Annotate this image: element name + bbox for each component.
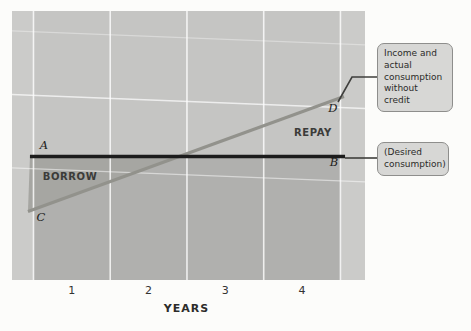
callout-desired-line: (Desired consumption) [377, 142, 449, 176]
figure-canvas: ABCDBORROWREPAY1234YEARS Income and actu… [0, 0, 471, 331]
callout-income-line: Income and actual consumption without cr… [377, 43, 453, 112]
